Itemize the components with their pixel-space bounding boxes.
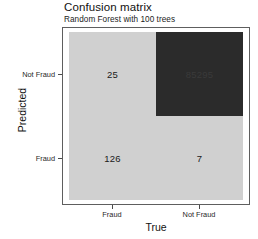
matrix-cell-notfraud-fraud: 25 (69, 32, 156, 116)
y-tick-mark-notfraud (58, 74, 62, 75)
x-tick-mark-fraud (112, 205, 113, 209)
matrix-cell-notfraud-notfraud: 85295 (156, 32, 243, 116)
y-tick-mark-fraud (58, 158, 62, 159)
chart-subtitle: Random Forest with 100 trees (64, 14, 254, 25)
matrix-cell-value: 25 (107, 69, 118, 80)
x-tick-label-notfraud: Not Fraud (159, 210, 239, 219)
y-axis-label: Predicted (16, 50, 28, 170)
confusion-matrix-figure: Confusion matrix Random Forest with 100 … (0, 0, 258, 239)
matrix-cell-value: 126 (104, 153, 120, 164)
chart-title: Confusion matrix (64, 1, 254, 14)
x-axis-label: True (62, 221, 250, 233)
matrix-cell-value: 85295 (186, 69, 213, 80)
matrix-cell-fraud-notfraud: 7 (156, 116, 243, 200)
matrix-cell-fraud-fraud: 126 (69, 116, 156, 200)
x-tick-mark-notfraud (199, 205, 200, 209)
heatmap-grid: 25 85295 126 7 (69, 32, 243, 200)
x-tick-label-fraud: Fraud (72, 210, 152, 219)
matrix-cell-value: 7 (197, 153, 202, 164)
title-block: Confusion matrix Random Forest with 100 … (64, 1, 254, 25)
